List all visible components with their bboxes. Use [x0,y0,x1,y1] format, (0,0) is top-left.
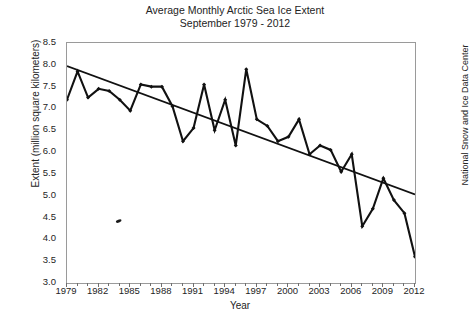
x-tick-label: 1991 [182,286,203,296]
data-point-marker [244,67,248,71]
chart-subtitle: September 1979 - 2012 [55,17,415,30]
trendline [67,66,415,194]
x-tick-label: 1997 [245,286,266,296]
stray-mark [115,219,122,224]
data-series-line [67,69,415,257]
data-source-credit: National Snow and Ice Data Center [460,35,470,195]
y-tick-label: 5.0 [43,190,56,200]
x-tick-label: 2009 [372,286,393,296]
x-axis-tick-labels: 1979198219851988199119941997200020032006… [0,286,473,300]
data-point-marker [149,85,153,89]
x-tick-label: 1979 [55,286,76,296]
y-tick-label: 4.0 [43,234,56,244]
chart-title-block: Average Monthly Arctic Sea Ice Extent Se… [55,4,415,30]
y-tick-label: 8.5 [43,37,56,47]
x-tick-label: 2006 [340,286,361,296]
annotation-marks [115,219,122,224]
plot-area [66,42,416,284]
y-axis-tick-labels: 3.03.54.04.55.05.56.06.57.07.58.08.5 [24,42,60,282]
y-tick-label: 6.5 [43,125,56,135]
x-tick-label: 2000 [277,286,298,296]
x-tick-label: 2012 [403,286,424,296]
y-tick-label: 7.5 [43,81,56,91]
x-tick-label: 1994 [214,286,235,296]
y-tick-label: 4.5 [43,212,56,222]
x-tick-label: 1988 [150,286,171,296]
chart-title: Average Monthly Arctic Sea Ice Extent [55,4,415,17]
y-tick-label: 3.5 [43,255,56,265]
y-tick-label: 5.5 [43,168,56,178]
x-tick-label: 1982 [87,286,108,296]
chart-plot-svg [67,43,415,283]
y-tick-label: 8.0 [43,59,56,69]
y-tick-label: 7.0 [43,103,56,113]
x-tick-label: 1985 [119,286,140,296]
x-axis-title: Year [66,300,414,311]
x-tick-label: 2003 [309,286,330,296]
y-tick-label: 6.0 [43,146,56,156]
data-point-markers [67,67,415,259]
data-point-marker [234,144,238,148]
chart-figure: Average Monthly Arctic Sea Ice Extent Se… [0,0,473,325]
